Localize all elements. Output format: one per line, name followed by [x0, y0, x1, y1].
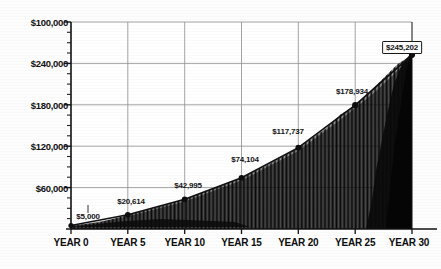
chart-plot-svg: [0, 0, 441, 269]
x-tick-label-year-30: YEAR 30: [389, 237, 429, 248]
annotation-value-year-5: $20,614: [117, 197, 145, 206]
data-point-year-20: [295, 145, 301, 151]
y-tick-label-4: $60,000: [36, 182, 68, 193]
y-tick-label-0: $100,000: [31, 17, 68, 28]
y-tick-label-3: $120,000: [31, 141, 68, 152]
annotation-value-year-25: $178,934: [336, 87, 368, 96]
x-tick-label-year-20: YEAR 20: [278, 237, 318, 248]
data-point-year-5: [125, 212, 131, 218]
x-tick-label-year-25: YEAR 25: [335, 237, 375, 248]
data-point-year-25: [352, 102, 358, 108]
annotation-value-year-10: $42,995: [174, 181, 202, 190]
annotation-value-year-15: $74,104: [231, 155, 259, 164]
x-tick-label-year-5: YEAR 5: [110, 237, 145, 248]
y-tick-label-1: $240,000: [31, 58, 68, 69]
annotation-value-year-20: $117,737: [272, 127, 303, 136]
annotation-value-year-30-highlight: $245,202: [382, 41, 422, 54]
annotation-value-year-0: $5,000: [76, 212, 99, 221]
chart-container: $100,000 $240,000 $180,000 $120,000 $60,…: [0, 0, 441, 269]
x-tick-label-year-10: YEAR 10: [165, 237, 205, 248]
data-point-year-10: [182, 196, 188, 202]
x-tick-label-year-15: YEAR 15: [221, 237, 261, 248]
data-point-year-15: [239, 175, 245, 181]
y-tick-label-2: $180,000: [31, 99, 68, 110]
x-tick-label-year-0: YEAR 0: [54, 237, 89, 248]
